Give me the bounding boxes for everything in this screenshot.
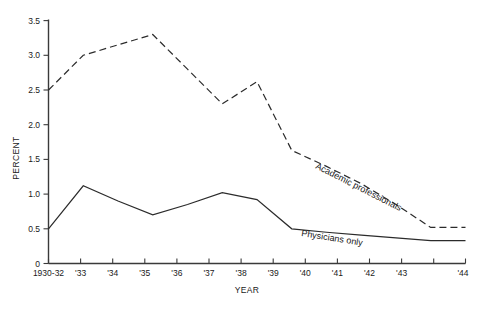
- series-line-physicians-only: [49, 186, 466, 241]
- y-tick-label: 0: [35, 259, 40, 269]
- y-axis-title: PERCENT: [11, 136, 21, 179]
- x-tick-label: '43: [396, 268, 407, 278]
- y-tick-label: 2.5: [28, 85, 40, 95]
- x-tick-label: '35: [139, 268, 150, 278]
- y-tick-label: 3.5: [28, 16, 40, 26]
- y-tick-marks: [44, 21, 49, 264]
- x-axis-title: YEAR: [235, 285, 260, 295]
- y-tick-label: 0.5: [28, 224, 40, 234]
- y-tick-label: 3.0: [28, 50, 40, 60]
- x-tick-label: '36: [171, 268, 182, 278]
- y-tick-label: 1.5: [28, 154, 40, 164]
- chart-page: 0 0.5 1.0 1.5 2.0 2.5 3.0 3.5: [0, 0, 477, 309]
- series-label-academic-professionals: Academic professionals: [314, 161, 404, 213]
- x-tick-label: '41: [332, 268, 343, 278]
- x-tick-marks: [49, 259, 466, 264]
- x-tick-labels: 1930-32 '33 '34 '35 '36 '37 '38 '39 '40 …: [33, 268, 469, 278]
- x-tick-label: '40: [300, 268, 311, 278]
- x-tick-label: '42: [364, 268, 375, 278]
- x-tick-label: '33: [75, 268, 86, 278]
- y-tick-label: 2.0: [28, 120, 40, 130]
- x-tick-label: '38: [236, 268, 247, 278]
- x-tick-label: '39: [268, 268, 279, 278]
- x-tick-label: 1930-32: [33, 268, 64, 278]
- y-tick-label: 1.0: [28, 189, 40, 199]
- series-label-physicians-only: Physicians only: [301, 228, 364, 248]
- line-chart: 0 0.5 1.0 1.5 2.0 2.5 3.0 3.5: [0, 0, 477, 309]
- x-tick-label: '37: [203, 268, 214, 278]
- x-tick-label: '34: [107, 268, 118, 278]
- y-tick-labels: 0 0.5 1.0 1.5 2.0 2.5 3.0 3.5: [28, 16, 40, 269]
- x-tick-label: '44: [457, 268, 468, 278]
